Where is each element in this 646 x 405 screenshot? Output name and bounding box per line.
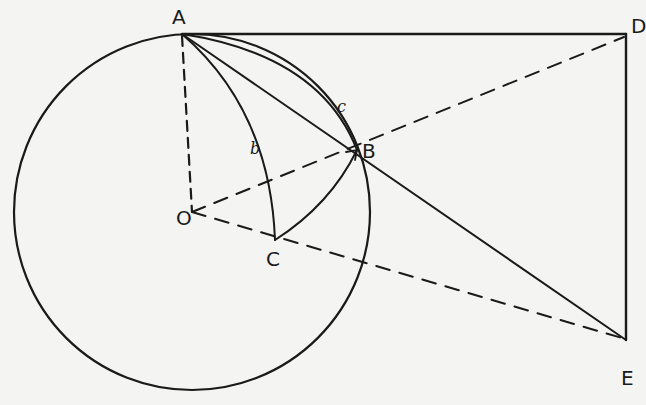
geometry-diagram: A B C D E O b c [0,0,646,405]
label-a: A [172,5,186,29]
label-c: C [266,247,280,271]
label-o: O [176,206,192,230]
line-o-d [192,37,624,212]
line-a-o [182,36,192,212]
diagram-svg: A B C D E O b c [0,0,646,405]
line-o-e [192,212,622,338]
label-b: B [362,139,376,163]
label-arc-c: c [337,97,346,116]
line-a-e [182,34,626,340]
arc-c-b [275,150,357,240]
label-d: D [631,14,646,38]
label-e: E [621,366,634,390]
label-arc-b: b [250,139,260,158]
